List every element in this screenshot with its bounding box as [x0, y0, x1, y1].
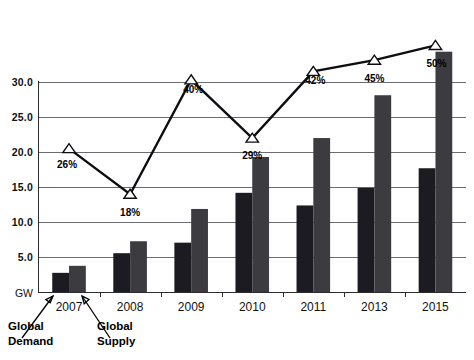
data-label-overcapacity-2008: 18% [120, 207, 140, 218]
overcapacity-bar-line-chart: 5.010.015.020.025.030.0GW 20072008200920… [0, 0, 474, 360]
y-tick-label-10.0: 10.0 [12, 216, 33, 228]
data-label-overcapacity-2010: 29% [242, 150, 262, 161]
data-label-overcapacity-2013: 45% [364, 73, 384, 84]
bar-global-supply-2008 [130, 241, 147, 292]
global-supply-callout-line2: Supply [97, 335, 136, 347]
bar-global-supply-2015 [435, 52, 452, 293]
global-demand-callout-line2: Demand [8, 335, 53, 347]
bar-global-supply-2011 [313, 138, 330, 292]
y-tick-label-15.0: 15.0 [12, 181, 33, 193]
bar-global-demand-2007 [52, 273, 69, 293]
bar-global-demand-2008 [113, 253, 130, 292]
data-label-overcapacity-2007: 26% [57, 159, 77, 170]
global-demand-callout-line1: Global [8, 320, 44, 332]
y-tick-label-20.0: 20.0 [12, 146, 33, 158]
y-axis-unit-label: GW [15, 287, 33, 299]
bar-global-demand-2013 [358, 188, 375, 293]
bar-global-demand-2011 [297, 205, 314, 292]
y-tick-label-25.0: 25.0 [12, 111, 33, 123]
bar-global-demand-2015 [419, 168, 436, 292]
chart-container: 5.010.015.020.025.030.0GW 20072008200920… [0, 0, 474, 360]
global-supply-callout-line1: Global [97, 320, 133, 332]
bar-global-supply-2010 [252, 157, 269, 292]
bar-global-demand-2009 [174, 243, 191, 293]
bar-global-supply-2007 [69, 266, 86, 293]
x-tick-label-2008: 2008 [117, 300, 144, 314]
data-label-overcapacity-2011: 42% [305, 75, 325, 86]
y-tick-label-5.0: 5.0 [18, 251, 33, 263]
bar-global-supply-2009 [191, 209, 208, 293]
x-tick-label-2010: 2010 [239, 300, 266, 314]
x-tick-label-2007: 2007 [56, 300, 83, 314]
x-tick-label-2015: 2015 [422, 300, 449, 314]
x-tick-label-2013: 2013 [361, 300, 388, 314]
bar-global-demand-2010 [235, 193, 252, 293]
x-tick-label-2011: 2011 [300, 300, 326, 314]
bar-global-supply-2013 [374, 95, 391, 292]
data-label-overcapacity-2015: 50% [426, 58, 446, 69]
y-tick-label-30.0: 30.0 [12, 76, 33, 88]
x-tick-label-2009: 2009 [178, 300, 205, 314]
data-label-overcapacity-2009: 40% [183, 84, 203, 95]
